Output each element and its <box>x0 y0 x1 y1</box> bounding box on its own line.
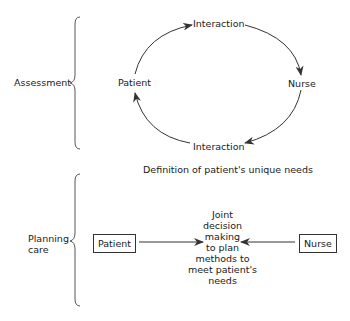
cycle-node-left: Patient <box>118 77 151 88</box>
center-line: meet patient's <box>180 264 265 275</box>
definition-caption: Definition of patient's unique needs <box>143 164 313 175</box>
arc-bottom-to-patient <box>135 93 190 143</box>
planning-label: Planning care <box>28 233 68 255</box>
planning-label-text: Planning care <box>28 233 69 255</box>
center-line: methods to <box>180 253 265 264</box>
arc-nurse-to-bottom <box>245 90 301 143</box>
assessment-label: Assessment <box>14 77 71 88</box>
center-line: decision <box>180 220 265 231</box>
nurse-box: Nurse <box>299 234 337 253</box>
planning-brace <box>70 174 80 306</box>
assessment-brace <box>70 17 80 149</box>
center-line: Joint <box>180 209 265 220</box>
diagram-lines <box>0 0 350 321</box>
cycle-node-top: Interaction <box>193 18 245 29</box>
patient-box: Patient <box>93 234 136 253</box>
center-line: to plan <box>180 242 265 253</box>
cycle-node-right: Nurse <box>288 78 316 89</box>
arc-patient-to-top <box>135 25 192 74</box>
center-line: making <box>180 231 265 242</box>
arc-top-to-nurse <box>245 25 301 75</box>
joint-decision-text: Joint decision making to plan methods to… <box>180 209 265 286</box>
cycle-node-bottom: Interaction <box>193 141 245 152</box>
center-line: needs <box>180 275 265 286</box>
